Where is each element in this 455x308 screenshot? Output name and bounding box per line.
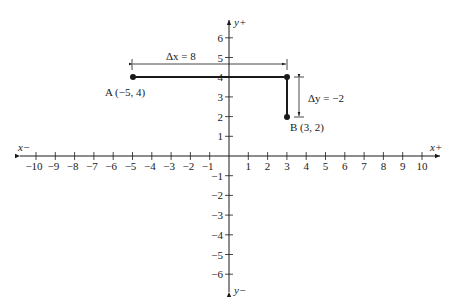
x-tick-label: −10 [25, 160, 43, 172]
y-neg-label: y− [233, 284, 246, 296]
x-pos-label: x+ [429, 141, 442, 153]
x-tick-label: 7 [361, 160, 367, 172]
y-tick-label: −6 [211, 268, 223, 280]
point-b-label: B (3, 2) [290, 121, 324, 134]
y-tick-label: 1 [218, 130, 224, 142]
x-tick-label: 10 [417, 160, 429, 172]
y-pos-label: y+ [233, 16, 246, 28]
x-tick-label: 8 [381, 160, 387, 172]
x-tick-label: −4 [144, 160, 156, 172]
x-tick-label: 5 [323, 160, 329, 172]
y-tick-label: −2 [211, 189, 223, 201]
x-tick-label: 4 [303, 160, 309, 172]
y-tick-label: −4 [211, 229, 223, 241]
y-tick-label: 6 [218, 32, 224, 44]
x-tick-label: −3 [163, 160, 175, 172]
point-a-label: A (−5, 4) [105, 86, 145, 99]
point-a [130, 74, 136, 80]
delta-y-label: Δy = −2 [308, 92, 344, 104]
x-tick-label: −9 [47, 160, 59, 172]
x-tick-label: 3 [284, 160, 290, 172]
x-tick-label: −6 [105, 160, 117, 172]
x-tick-label: −8 [67, 160, 79, 172]
y-tick-label: −1 [211, 170, 223, 182]
x-tick-label: −5 [125, 160, 137, 172]
x-tick-label: −7 [86, 160, 98, 172]
y-tick-label: 3 [218, 91, 224, 103]
y-tick-label: −3 [211, 209, 223, 221]
x-tick-label: 9 [400, 160, 406, 172]
x-tick-label: 6 [342, 160, 348, 172]
x-tick-label: 2 [265, 160, 271, 172]
x-axis-ticks: −10−9−8−7−6−5−4−3−2−112345678910 [25, 152, 428, 172]
x-neg-label: x− [17, 141, 30, 153]
x-tick-label: −2 [183, 160, 195, 172]
x-tick-label: 1 [246, 160, 252, 172]
delta-x-label: Δx = 8 [166, 50, 196, 62]
y-tick-label: 5 [218, 52, 224, 64]
point-b [284, 114, 290, 120]
coordinate-plane: −10−9−8−7−6−5−4−3−2−112345678910 1−12−23… [0, 0, 455, 308]
corner-point [284, 74, 290, 80]
y-tick-label: −5 [211, 249, 223, 261]
y-tick-label: 2 [218, 111, 224, 123]
